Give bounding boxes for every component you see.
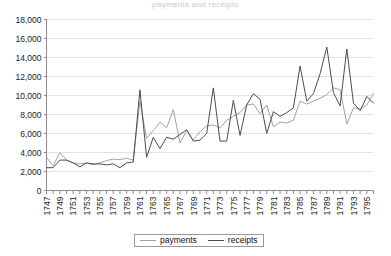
y-tick-label: 10,000	[16, 91, 42, 101]
y-tick-label: 14,000	[16, 53, 42, 63]
x-tick-label: 1767	[175, 196, 185, 215]
series-line-receipts	[47, 47, 374, 168]
x-tick-label: 1765	[162, 196, 172, 215]
y-tick-label: 18,000	[16, 15, 42, 25]
chart-legend: payments receipts	[134, 234, 264, 247]
x-tick-marks	[47, 191, 374, 195]
y-tick-label: 8,000	[20, 110, 42, 120]
x-tick-label: 1751	[68, 196, 78, 215]
x-tick-label: 1753	[82, 196, 92, 215]
x-tick-label: 1779	[255, 196, 265, 215]
y-tick-label: 4,000	[20, 148, 42, 158]
x-tick-label: 1781	[269, 196, 279, 215]
x-tick-label: 1773	[215, 196, 225, 215]
data-series-group	[47, 47, 374, 168]
x-tick-label: 1771	[202, 196, 212, 215]
x-tick-label: 1763	[148, 196, 158, 215]
chart-container: payments and receipts 02,0004,0006,0008,…	[0, 0, 391, 256]
x-tick-label: 1785	[295, 196, 305, 215]
legend-swatch-receipts	[208, 240, 224, 241]
y-axis-tick-labels: 02,0004,0006,0008,00010,00012,00014,0001…	[16, 15, 42, 196]
x-tick-label: 1775	[229, 196, 239, 215]
x-tick-label: 1761	[135, 196, 145, 215]
x-tick-label: 1757	[108, 196, 118, 215]
y-tick-label: 0	[37, 186, 42, 196]
x-tick-label: 1795	[362, 196, 372, 215]
x-tick-label: 1791	[335, 196, 345, 215]
chart-plot-area: 02,0004,0006,0008,00010,00012,00014,0001…	[0, 0, 391, 256]
x-tick-label: 1793	[349, 196, 359, 215]
x-tick-label: 1749	[55, 196, 65, 215]
y-tick-label: 12,000	[16, 72, 42, 82]
legend-item-payments: payments	[140, 236, 197, 245]
x-tick-label: 1755	[95, 196, 105, 215]
legend-swatch-payments	[140, 240, 156, 241]
x-tick-label: 1759	[122, 196, 132, 215]
y-tick-label: 2,000	[20, 167, 42, 177]
legend-label-receipts: receipts	[228, 236, 258, 245]
x-tick-label: 1747	[42, 196, 52, 215]
y-tick-label: 16,000	[16, 34, 42, 44]
legend-label-payments: payments	[160, 236, 197, 245]
x-tick-label: 1787	[309, 196, 319, 215]
x-tick-label: 1777	[242, 196, 252, 215]
x-tick-label: 1789	[322, 196, 332, 215]
x-tick-label: 1769	[189, 196, 199, 215]
x-axis-tick-labels: 1747174917511753175517571759176117631765…	[42, 196, 372, 215]
series-line-payments	[47, 88, 374, 166]
x-tick-label: 1783	[282, 196, 292, 215]
legend-item-receipts: receipts	[208, 236, 258, 245]
y-tick-label: 6,000	[20, 129, 42, 139]
